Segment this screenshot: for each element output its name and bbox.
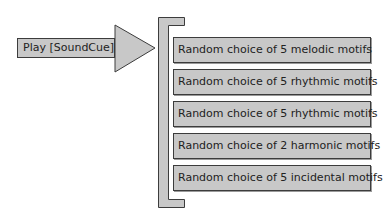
motif-box-harmonic: Random choice of 2 harmonic motifs bbox=[173, 133, 371, 159]
motif-box-melodic: Random choice of 5 melodic motifs bbox=[173, 37, 371, 63]
motif-box-rhythmic-2: Random choice of 5 rhythmic motifs bbox=[173, 101, 371, 127]
soundcue-diagram: Play [SoundCue] Random choice of 5 melod… bbox=[0, 0, 386, 220]
arrow-icon bbox=[115, 25, 155, 72]
play-soundcue-box: Play [SoundCue] bbox=[17, 38, 115, 58]
motif-box-rhythmic-1: Random choice of 5 rhythmic motifs bbox=[173, 69, 371, 95]
motif-box-incidental: Random choice of 5 incidental motifs bbox=[173, 165, 371, 191]
